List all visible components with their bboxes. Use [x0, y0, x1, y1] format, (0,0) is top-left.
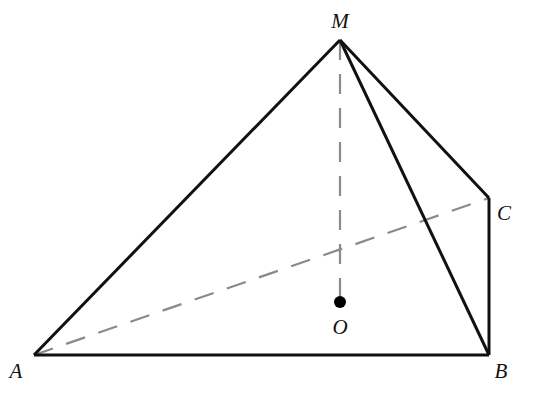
label-A: A — [8, 359, 23, 383]
label-C: C — [497, 201, 512, 225]
label-M: M — [330, 9, 350, 33]
edge-MB — [340, 40, 489, 355]
label-O: O — [332, 315, 347, 339]
edge-AC-dashed — [34, 198, 489, 355]
point-O-dot — [334, 296, 346, 308]
diagram-canvas: M A B C O — [0, 0, 537, 412]
label-B: B — [495, 359, 508, 383]
edge-MA — [34, 40, 340, 355]
pyramid-diagram: M A B C O — [0, 0, 537, 412]
edge-MC — [340, 40, 489, 198]
